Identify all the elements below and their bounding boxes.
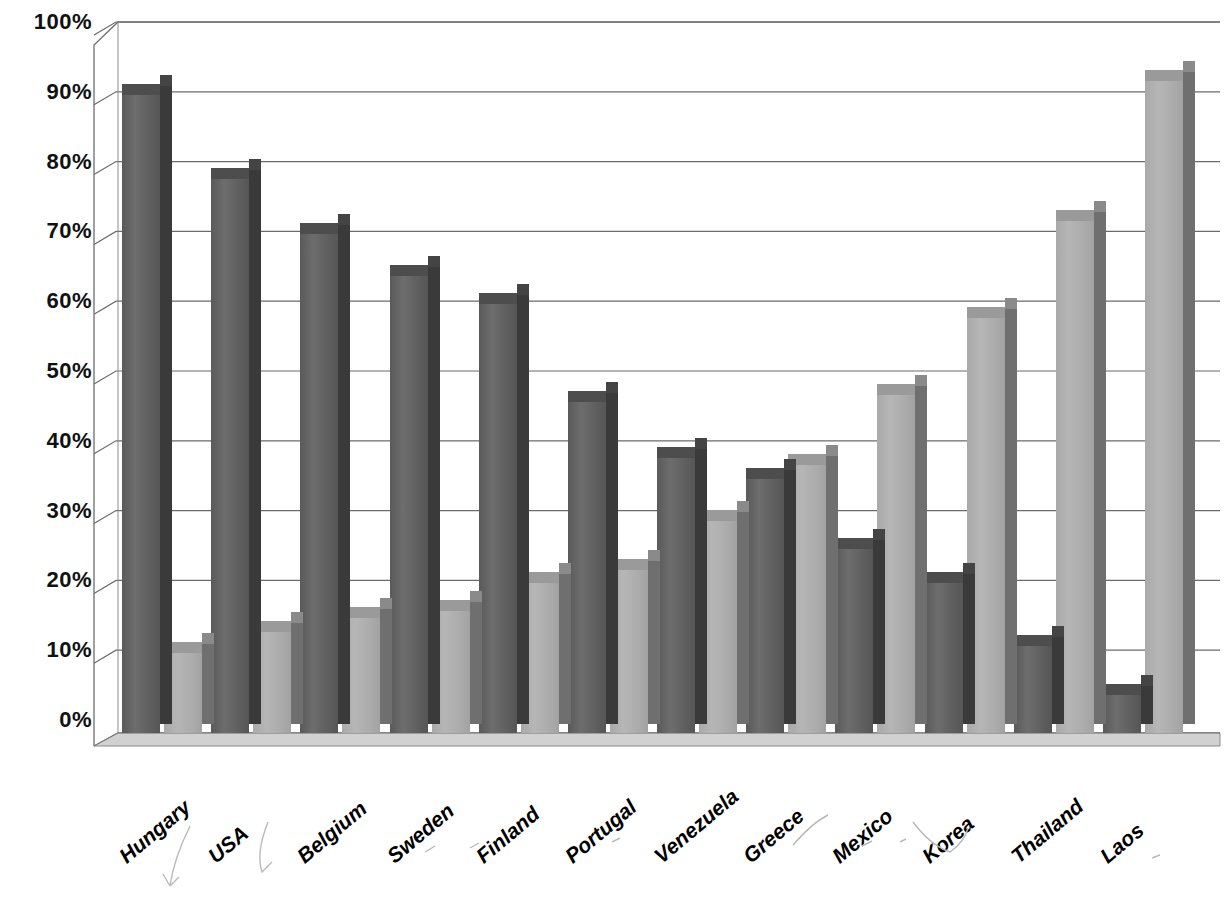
bar-side-face bbox=[915, 375, 927, 724]
bar-top-face bbox=[568, 391, 606, 402]
bar-top-bevel bbox=[826, 445, 838, 456]
bar-top-bevel bbox=[517, 284, 529, 295]
bar-top-face bbox=[300, 223, 338, 234]
bar-top-face bbox=[479, 293, 517, 304]
bar-top-bevel bbox=[1052, 626, 1064, 637]
bar-hungary-series-1 bbox=[122, 84, 160, 733]
bar-top-bevel bbox=[291, 612, 303, 623]
bar-group bbox=[211, 18, 300, 748]
bar-top-bevel bbox=[963, 563, 975, 574]
bar-side-face bbox=[737, 501, 749, 724]
bar-side-face bbox=[1183, 61, 1195, 724]
bar-side-face bbox=[338, 214, 350, 724]
bar-front-face bbox=[390, 265, 428, 733]
bar-top-face bbox=[746, 468, 784, 479]
bar-top-bevel bbox=[559, 563, 571, 574]
bar-front-face bbox=[835, 538, 873, 733]
bar-top-bevel bbox=[1005, 298, 1017, 309]
bar-top-bevel bbox=[784, 459, 796, 470]
bar-side-face bbox=[380, 598, 392, 724]
bar-side-face bbox=[202, 633, 214, 724]
bar-belgium-series-1 bbox=[300, 223, 338, 733]
y-axis-tick-label: 80% bbox=[6, 149, 92, 175]
y-axis-tick-label: 10% bbox=[6, 637, 92, 663]
bar-greece-series-1 bbox=[746, 468, 784, 733]
bar-group bbox=[390, 18, 479, 748]
bar-group bbox=[568, 18, 657, 748]
x-axis-label-hungary: Hungary bbox=[115, 795, 196, 868]
bar-front-face bbox=[657, 447, 695, 733]
bar-side-face bbox=[1052, 626, 1064, 724]
bar-top-bevel bbox=[648, 550, 660, 561]
bar-front-face bbox=[1145, 70, 1183, 733]
x-axis-label-venezuela: Venezuela bbox=[650, 784, 744, 868]
bar-portugal-series-1 bbox=[568, 391, 606, 733]
bar-top-bevel bbox=[606, 382, 618, 393]
bar-group bbox=[1014, 18, 1103, 748]
bar-top-bevel bbox=[470, 591, 482, 602]
x-axis-label-portugal: Portugal bbox=[560, 795, 641, 868]
bar-top-face bbox=[1056, 210, 1094, 221]
y-axis-tick-label: 20% bbox=[6, 567, 92, 593]
bar-group bbox=[657, 18, 746, 748]
x-axis-category-labels: HungaryUSABelgiumSwedenFinlandPortugalVe… bbox=[0, 752, 1229, 872]
bar-top-bevel bbox=[380, 598, 392, 609]
x-axis-label-greece: Greece bbox=[739, 804, 809, 868]
bar-top-face bbox=[967, 307, 1005, 318]
bar-front-face bbox=[568, 391, 606, 733]
bar-top-face bbox=[1014, 635, 1052, 646]
x-axis-label-finland: Finland bbox=[471, 802, 544, 868]
bar-side-face bbox=[160, 75, 172, 724]
bar-group bbox=[122, 18, 211, 748]
bar-top-face bbox=[1103, 684, 1141, 695]
bar-group bbox=[479, 18, 568, 748]
bar-side-face bbox=[873, 529, 885, 724]
bar-front-face bbox=[300, 223, 338, 733]
bar-mexico-series-1 bbox=[835, 538, 873, 733]
bar-top-bevel bbox=[428, 256, 440, 267]
bar-side-face bbox=[1005, 298, 1017, 724]
x-axis-label-belgium: Belgium bbox=[293, 796, 372, 868]
bar-side-face bbox=[606, 382, 618, 724]
bar-top-bevel bbox=[737, 501, 749, 512]
bar-top-bevel bbox=[873, 529, 885, 540]
bar-side-face bbox=[1094, 201, 1106, 725]
bar-side-face bbox=[559, 563, 571, 724]
x-axis-label-usa: USA bbox=[204, 821, 253, 868]
bar-chart: 0%10%20%30%40%50%60%70%80%90%100% Hungar… bbox=[0, 0, 1229, 917]
bar-front-face bbox=[746, 468, 784, 733]
bar-front-face bbox=[479, 293, 517, 733]
bar-side-face bbox=[517, 284, 529, 724]
x-axis-label-korea: Korea bbox=[917, 811, 978, 868]
y-axis-tick-label: 40% bbox=[6, 428, 92, 454]
bar-front-face bbox=[211, 168, 249, 733]
x-axis-label-laos: Laos bbox=[1095, 818, 1148, 868]
bar-top-bevel bbox=[160, 75, 172, 86]
bar-group bbox=[1103, 18, 1192, 748]
bar-top-bevel bbox=[1183, 61, 1195, 72]
bar-top-face bbox=[835, 538, 873, 549]
bar-top-face bbox=[925, 572, 963, 583]
bar-laos-series-2 bbox=[1145, 70, 1183, 733]
y-axis-tick-label: 30% bbox=[6, 498, 92, 524]
bar-side-face bbox=[428, 256, 440, 724]
bar-laos-series-1 bbox=[1103, 684, 1141, 733]
bar-front-face bbox=[925, 572, 963, 733]
bar-group bbox=[835, 18, 924, 748]
bar-side-face bbox=[291, 612, 303, 724]
y-axis-tick-label: 90% bbox=[6, 79, 92, 105]
y-axis-tick-label: 70% bbox=[6, 218, 92, 244]
bar-series-container bbox=[92, 18, 1222, 748]
bar-top-bevel bbox=[915, 375, 927, 386]
bar-top-face bbox=[390, 265, 428, 276]
bar-thailand-series-1 bbox=[1014, 635, 1052, 733]
x-axis-label-thailand: Thailand bbox=[1006, 794, 1088, 868]
bar-top-bevel bbox=[338, 214, 350, 225]
bar-side-face bbox=[695, 438, 707, 724]
bar-side-face bbox=[963, 563, 975, 724]
bar-top-bevel bbox=[202, 633, 214, 644]
bar-top-face bbox=[877, 384, 915, 395]
bar-side-face bbox=[470, 591, 482, 724]
bar-korea-series-1 bbox=[925, 572, 963, 733]
bar-top-face bbox=[1145, 70, 1183, 81]
